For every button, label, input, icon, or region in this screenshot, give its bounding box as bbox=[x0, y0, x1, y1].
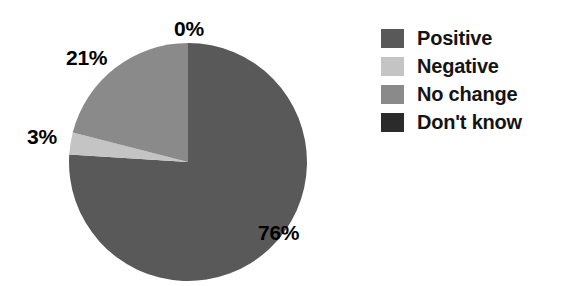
legend-item[interactable]: Negative bbox=[381, 55, 522, 77]
legend-color-swatch bbox=[381, 29, 404, 48]
legend-item-label: Negative bbox=[417, 56, 499, 76]
chart-page: 0% 21% 3% 76% PositiveNegativeNo changeD… bbox=[0, 0, 577, 286]
legend-item-label: Positive bbox=[417, 28, 492, 48]
legend-color-swatch bbox=[381, 85, 404, 104]
pie-slice-group bbox=[69, 43, 307, 281]
pie-chart-graphic bbox=[0, 0, 380, 286]
pie-chart-area: 0% 21% 3% 76% bbox=[0, 0, 380, 286]
legend-color-swatch bbox=[381, 57, 404, 76]
legend-item[interactable]: Positive bbox=[381, 27, 522, 49]
legend-item-label: Don't know bbox=[417, 112, 522, 132]
legend-item[interactable]: No change bbox=[381, 83, 522, 105]
legend-item-label: No change bbox=[417, 84, 517, 104]
legend-item[interactable]: Don't know bbox=[381, 111, 522, 133]
chart-legend: PositiveNegativeNo changeDon't know bbox=[381, 27, 522, 133]
pie-data-label-positive: 76% bbox=[258, 222, 299, 243]
pie-data-label-negative: 3% bbox=[27, 126, 57, 147]
legend-color-swatch bbox=[381, 113, 404, 132]
pie-data-label-no-change: 21% bbox=[66, 47, 107, 68]
pie-data-label-dont-know: 0% bbox=[174, 18, 204, 39]
